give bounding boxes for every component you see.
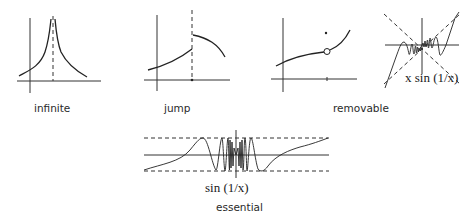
removable-label: removable: [333, 102, 389, 114]
point-value-dot: [325, 32, 327, 34]
left-branch-curve: [19, 19, 51, 76]
jump-graph: jump: [144, 10, 230, 114]
left-piece-curve: [148, 49, 192, 70]
open-circle-hole: [324, 49, 330, 55]
right-oscillation-curve: [422, 12, 459, 55]
essential-label: essential: [216, 201, 263, 213]
essential-graph: sin (1/x) essential: [144, 130, 329, 213]
right-piece-curve: [330, 30, 350, 50]
right-branch-curve: [55, 19, 87, 77]
infinite-label: infinite: [34, 102, 70, 114]
xsin-formula-label: x sin (1/x): [405, 70, 458, 85]
infinite-graph: infinite: [17, 16, 101, 114]
xsin-graph: x sin (1/x): [384, 12, 460, 88]
discontinuity-diagram: infinite jump removable x sin (1/x): [0, 0, 472, 217]
jump-label: jump: [163, 102, 191, 114]
right-piece-curve: [193, 35, 225, 57]
sin-formula-label: sin (1/x): [205, 180, 249, 195]
removable-graph: removable: [271, 18, 389, 114]
jump-tick: [191, 79, 194, 82]
